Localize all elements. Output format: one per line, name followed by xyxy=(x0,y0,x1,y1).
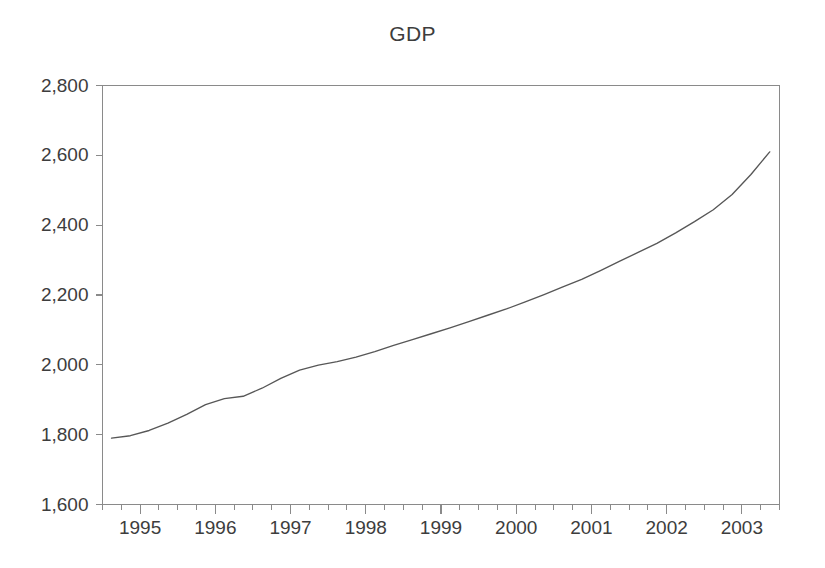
chart-figure: GDP 2,8002,6002,4002,2002,0001,8001,600 … xyxy=(0,0,825,568)
y-tick-label: 2,600 xyxy=(41,144,89,165)
x-tick-label: 1998 xyxy=(345,517,387,538)
x-axis-ticks xyxy=(103,505,780,514)
x-axis-tick-labels: 199519961997199819992000200120022003 xyxy=(119,517,763,538)
x-tick-label: 1999 xyxy=(420,517,462,538)
y-tick-label: 1,600 xyxy=(41,494,89,515)
data-series-gdp xyxy=(112,152,770,438)
x-tick-label: 1995 xyxy=(119,517,161,538)
x-tick-label: 2000 xyxy=(495,517,537,538)
x-tick-label: 2003 xyxy=(721,517,763,538)
y-tick-label: 2,800 xyxy=(41,75,89,96)
y-axis-ticks xyxy=(96,86,103,505)
gdp-line xyxy=(112,152,770,438)
x-tick-label: 1997 xyxy=(269,517,311,538)
y-axis-tick-labels: 2,8002,6002,4002,2002,0001,8001,600 xyxy=(41,75,89,515)
x-tick-label: 2001 xyxy=(570,517,612,538)
x-tick-label: 1996 xyxy=(194,517,236,538)
y-tick-label: 2,000 xyxy=(41,354,89,375)
y-tick-label: 2,200 xyxy=(41,284,89,305)
y-tick-label: 2,400 xyxy=(41,214,89,235)
y-tick-label: 1,800 xyxy=(41,424,89,445)
x-tick-label: 2002 xyxy=(646,517,688,538)
plot-border xyxy=(103,86,780,505)
plot-frame xyxy=(103,86,780,505)
chart-plot-area: 2,8002,6002,4002,2002,0001,8001,600 1995… xyxy=(0,0,825,568)
